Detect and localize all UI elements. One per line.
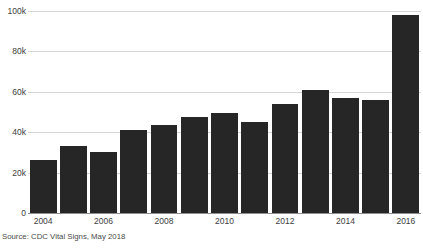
bar bbox=[181, 117, 208, 213]
bar-slot bbox=[30, 11, 57, 213]
bar-slot bbox=[120, 11, 147, 213]
bar-slot bbox=[332, 11, 359, 213]
bar-slot bbox=[151, 11, 178, 213]
y-tick-label: 60k bbox=[2, 87, 26, 96]
x-tick-label: 2012 bbox=[265, 215, 305, 227]
y-tick-label: 100k bbox=[2, 7, 26, 16]
bar bbox=[30, 160, 57, 213]
x-tick-label: 2010 bbox=[205, 215, 245, 227]
y-tick-label: 40k bbox=[2, 128, 26, 137]
bar bbox=[332, 98, 359, 213]
x-tick-label: 2014 bbox=[325, 215, 365, 227]
y-tick-label: 20k bbox=[2, 168, 26, 177]
bar bbox=[241, 122, 268, 213]
bar bbox=[302, 90, 329, 213]
bar-slot bbox=[60, 11, 87, 213]
bar bbox=[60, 146, 87, 213]
x-tick-label: 2016 bbox=[386, 215, 423, 227]
bar-slot bbox=[272, 11, 299, 213]
y-tick-label: 80k bbox=[2, 47, 26, 56]
bar-slot bbox=[392, 11, 419, 213]
bar bbox=[272, 104, 299, 213]
source-note: Source: CDC Vital Signs, May 2018 bbox=[2, 232, 125, 242]
bar bbox=[362, 100, 389, 213]
x-tick-label: 2008 bbox=[144, 215, 184, 227]
x-axis-line bbox=[28, 213, 421, 214]
bar-slot bbox=[181, 11, 208, 213]
bar bbox=[90, 152, 117, 213]
bar-slot bbox=[90, 11, 117, 213]
x-tick-label: 2006 bbox=[84, 215, 124, 227]
bar-chart: 020k40k60k80k100k 2004200620082010201220… bbox=[0, 0, 423, 248]
bar-slot bbox=[362, 11, 389, 213]
bar bbox=[151, 125, 178, 213]
y-axis: 020k40k60k80k100k bbox=[0, 0, 26, 248]
bar bbox=[120, 130, 147, 213]
bar-series bbox=[28, 11, 421, 213]
x-tick-label: 2004 bbox=[23, 215, 63, 227]
bar-slot bbox=[241, 11, 268, 213]
bar-slot bbox=[211, 11, 238, 213]
bar bbox=[392, 15, 419, 213]
bar-slot bbox=[302, 11, 329, 213]
x-axis: 2004200620082010201220142016 bbox=[28, 215, 421, 229]
bar bbox=[211, 113, 238, 213]
